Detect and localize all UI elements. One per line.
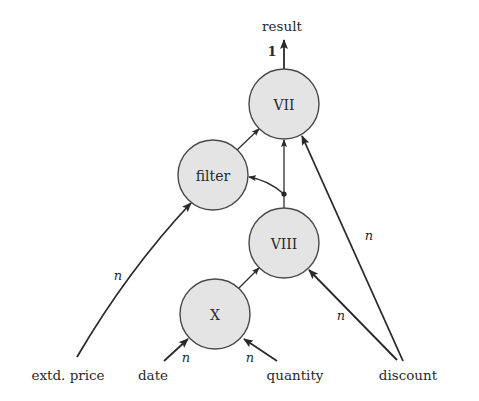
multiplicity-quantity: n <box>246 350 254 365</box>
output-multiplicity: 1 <box>267 44 276 59</box>
input-extd-price: extd. price <box>31 367 104 383</box>
node-vii-label: VII <box>272 97 294 113</box>
edge-x-to-viii <box>239 268 259 288</box>
input-date: date <box>138 367 168 383</box>
edge-junction-to-filter <box>249 177 284 194</box>
node-filter-label: filter <box>196 168 231 184</box>
edge-filter-to-vii <box>237 129 259 150</box>
node-filter: filter <box>178 140 248 210</box>
input-quantity: quantity <box>267 367 324 383</box>
multiplicity-extd-price: n <box>114 268 122 283</box>
multiplicity-discount-vii: n <box>365 228 373 243</box>
result-label: result <box>262 18 302 34</box>
node-vii: VII <box>249 69 319 139</box>
multiplicity-date: n <box>182 350 190 365</box>
dataflow-diagram: result 1 n n n n n VII filter VIII X ext… <box>0 0 479 401</box>
edge-extd-price-to-filter <box>77 203 191 357</box>
multiplicity-discount-viii: n <box>337 308 345 323</box>
node-x: X <box>180 279 250 349</box>
input-discount: discount <box>379 367 438 383</box>
node-viii-label: VIII <box>270 236 298 252</box>
edge-discount-to-viii <box>309 270 397 360</box>
node-viii: VIII <box>249 208 319 278</box>
node-x-label: X <box>210 307 220 323</box>
